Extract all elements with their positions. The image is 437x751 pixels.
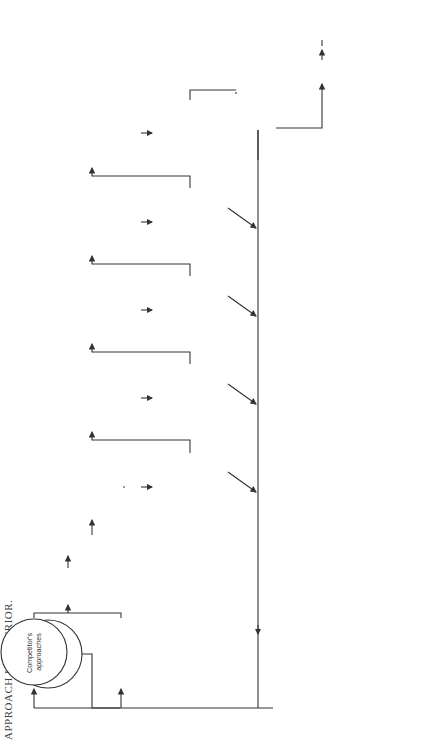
flowchart-shapes: Competitor's approaches: [0, 0, 437, 751]
svg-text:Competitor's approaches: Competitor's approaches: [25, 631, 43, 673]
competitor-approaches-circle: Competitor's approaches: [1, 619, 67, 685]
